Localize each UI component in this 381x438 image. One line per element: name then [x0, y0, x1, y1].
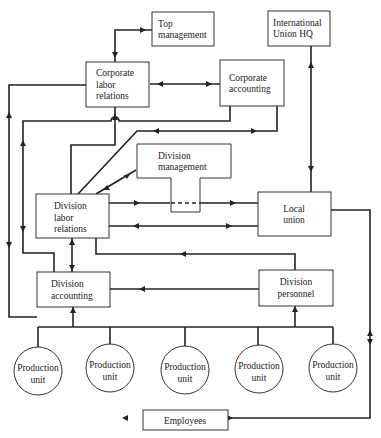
node-production-unit-1: Production unit: [14, 347, 62, 395]
arrow-left-icon: [180, 251, 186, 257]
node-label: Division: [158, 151, 191, 161]
node-label: union: [283, 215, 305, 225]
node-label: management: [158, 162, 207, 172]
node-production-unit-2: Production unit: [86, 344, 134, 392]
node-international-union-hq: International Union HQ: [268, 11, 330, 46]
edge-clr-top: [115, 30, 152, 62]
node-production-unit-4: Production unit: [235, 345, 283, 393]
node-label: unit: [178, 374, 193, 384]
arrow-left-icon: [139, 286, 145, 292]
node-label: relations: [54, 224, 87, 234]
arrow-right-icon: [134, 200, 140, 206]
arrow-up-icon: [308, 62, 314, 68]
node-production-unit-5: Production unit: [309, 344, 357, 392]
arrow-down-icon: [20, 226, 26, 232]
arrow-up-icon: [20, 140, 26, 146]
node-label: Division: [51, 279, 84, 289]
node-division-management: Division management: [137, 144, 231, 212]
node-label: Corporate: [96, 68, 134, 78]
node-label: unit: [252, 373, 267, 383]
node-division-accounting: Division accounting: [37, 272, 110, 307]
node-label: Employees: [164, 416, 207, 426]
node-label: unit: [326, 372, 341, 382]
arrow-down-icon: [6, 242, 12, 248]
arrow-up-icon: [367, 330, 373, 336]
arrow-right-icon: [140, 27, 146, 33]
node-label: accounting: [229, 84, 271, 94]
arrow-left-icon: [133, 223, 139, 229]
arrow-right-icon: [226, 223, 232, 229]
node-label: unit: [31, 375, 46, 385]
node-top-management: Top management: [152, 12, 214, 46]
edge-dp-dlr: [96, 238, 295, 274]
arrow-left-icon: [122, 415, 128, 421]
node-label: Union HQ: [273, 29, 313, 39]
node-label: Local: [283, 204, 305, 214]
node-local-union: Local union: [258, 192, 331, 236]
node-label: Division: [280, 277, 313, 287]
node-employees: Employees: [143, 410, 228, 430]
arrow-right-icon: [251, 128, 257, 134]
edge-dlr-dm: [96, 170, 136, 194]
node-label: Production: [238, 361, 280, 371]
node-label: Production: [164, 362, 206, 372]
node-label: Corporate: [229, 73, 267, 83]
arrow-up-icon: [6, 112, 12, 118]
node-label: Production: [312, 360, 354, 370]
node-label: labor: [54, 213, 74, 223]
arrow-right-icon: [230, 200, 236, 206]
arrow-left-icon: [157, 81, 163, 87]
arrow-right-icon: [206, 81, 212, 87]
node-label: unit: [103, 372, 118, 382]
arrow-down-icon: [367, 339, 373, 345]
arrow-up-icon: [70, 307, 76, 313]
node-label: labor: [96, 80, 116, 90]
node-label: Top: [158, 19, 173, 29]
node-division-personnel: Division personnel: [259, 270, 333, 306]
arrow-down-icon: [308, 166, 314, 172]
node-label: Production: [17, 363, 59, 373]
node-corporate-labor-relations: Corporate labor relations: [86, 62, 149, 107]
node-label: personnel: [278, 289, 315, 299]
node-corporate-accounting: Corporate accounting: [220, 60, 284, 106]
node-label: Production: [89, 360, 131, 370]
node-label: International: [273, 18, 322, 28]
node-label: Division: [54, 201, 87, 211]
arrow-down-icon: [69, 265, 75, 271]
arrow-up-icon: [69, 239, 75, 245]
node-label: relations: [96, 91, 129, 101]
node-division-labor-relations: Division labor relations: [36, 194, 109, 238]
arrow-down-icon: [112, 52, 118, 58]
node-production-unit-3: Production unit: [161, 346, 209, 394]
arrow-up-icon: [292, 306, 298, 312]
arrow-left-icon: [153, 128, 159, 134]
org-flow-diagram: Top management International Union HQ Co…: [0, 0, 381, 438]
node-label: accounting: [51, 291, 93, 301]
node-label: management: [158, 30, 207, 40]
